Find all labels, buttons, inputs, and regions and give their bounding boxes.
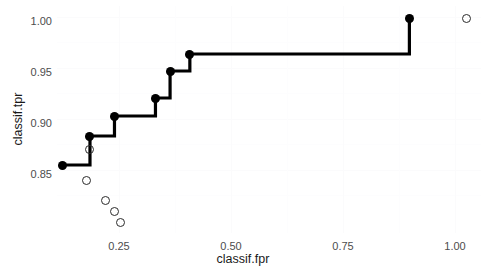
- data-point-open: [462, 14, 471, 23]
- data-point-filled: [110, 112, 119, 121]
- data-point-open: [116, 218, 125, 227]
- y-tick-0.90: 0.90: [0, 113, 52, 131]
- data-point-filled: [58, 161, 67, 170]
- y-tick-1.00: 1.00: [0, 11, 52, 29]
- y-tick-0.85: 0.85: [0, 164, 52, 182]
- data-point-filled: [185, 50, 194, 59]
- x-tick-label: 0.25: [108, 240, 129, 252]
- data-point-filled: [405, 14, 414, 23]
- roc-plot: 1.00 0.95 0.90 0.85 0.25 0.50 0.75 1.00 …: [0, 0, 486, 275]
- x-tick-label: 1.00: [444, 240, 465, 252]
- data-point-open: [101, 196, 110, 205]
- data-point-filled: [151, 94, 160, 103]
- x-tick-label: 0.50: [220, 240, 241, 252]
- y-tick-label: 0.90: [31, 117, 52, 129]
- data-point-filled: [85, 132, 94, 141]
- step-curve-line: [57, 6, 481, 233]
- y-tick-label: 1.00: [31, 15, 52, 27]
- data-point-open: [85, 145, 94, 154]
- data-point-open: [110, 207, 119, 216]
- x-axis-title: classif.fpr: [0, 252, 486, 266]
- y-tick-label: 0.85: [31, 168, 52, 180]
- y-tick-0.95: 0.95: [0, 62, 52, 80]
- data-point-filled: [166, 67, 175, 76]
- y-tick-label: 0.95: [31, 66, 52, 78]
- x-tick-label: 0.75: [332, 240, 353, 252]
- y-axis-title: classif.tpr: [11, 49, 25, 189]
- plot-panel: [57, 6, 481, 233]
- data-point-open: [82, 176, 91, 185]
